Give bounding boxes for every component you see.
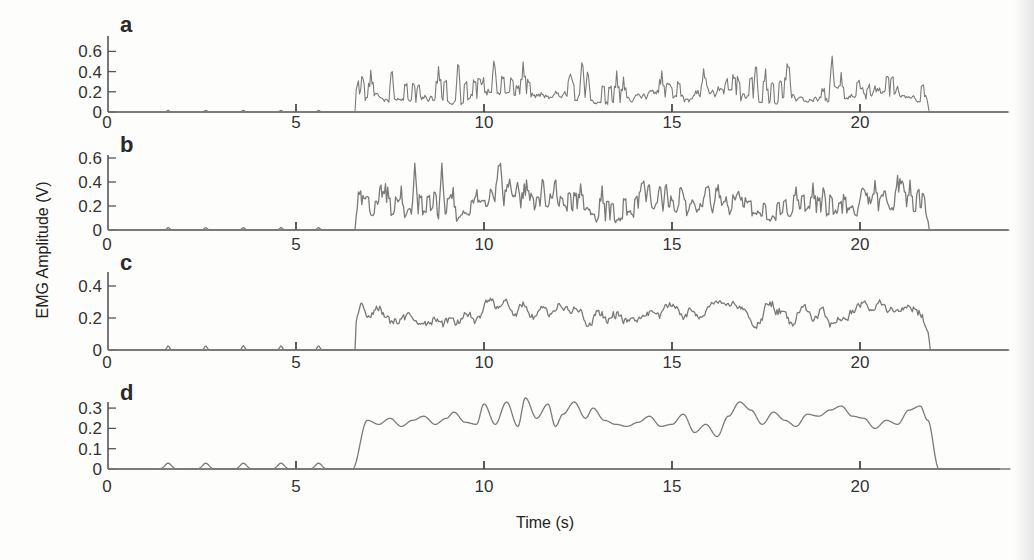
x-tick-label: 15 (663, 113, 682, 132)
panel-d: d 00.10.20.305101520 (78, 380, 1010, 496)
panel-c: c 00.20.405101520 (78, 250, 1009, 372)
emg-trace (108, 398, 1010, 469)
page-edge-shadow (1014, 0, 1034, 560)
emg-trace (108, 163, 1009, 230)
x-tick-label: 15 (663, 235, 682, 254)
x-tick-label: 20 (851, 353, 870, 372)
x-tick-label: 0 (102, 235, 111, 254)
x-tick-label: 0 (102, 477, 111, 496)
y-tick-label: 0.4 (78, 277, 102, 296)
y-tick-label: 0 (93, 460, 102, 479)
y-tick-label: 0.4 (78, 173, 102, 192)
x-tick-label: 15 (663, 353, 682, 372)
emg-trace (108, 56, 1009, 112)
panel-b: b 00.20.40.605101520 (78, 132, 1009, 254)
y-tick-label: 0.3 (78, 399, 102, 418)
x-tick-label: 10 (475, 477, 494, 496)
y-tick-label: 0 (93, 221, 102, 240)
y-tick-label: 0.6 (78, 42, 102, 61)
panel-label-c: c (120, 250, 132, 275)
y-tick-label: 0 (93, 341, 102, 360)
emg-trace (108, 298, 1009, 350)
x-tick-label: 5 (291, 235, 300, 254)
x-tick-label: 10 (475, 353, 494, 372)
x-tick-label: 20 (851, 235, 870, 254)
y-tick-label: 0.4 (78, 63, 102, 82)
x-tick-label: 10 (475, 113, 494, 132)
x-tick-label: 20 (851, 477, 870, 496)
panel-label-b: b (120, 132, 133, 157)
x-tick-label: 5 (291, 353, 300, 372)
y-tick-label: 0 (93, 103, 102, 122)
y-axis-title: EMG Amplitude (V) (34, 182, 51, 319)
x-tick-label: 15 (663, 477, 682, 496)
x-tick-label: 20 (851, 113, 870, 132)
y-tick-label: 0.2 (78, 83, 102, 102)
x-tick-label: 5 (291, 113, 300, 132)
x-tick-label: 5 (291, 477, 300, 496)
emg-figure: EMG Amplitude (V) Time (s) a 00.20.40.60… (0, 0, 1034, 560)
x-axis-title: Time (s) (516, 514, 574, 531)
y-tick-label: 0.2 (78, 309, 102, 328)
y-tick-label: 0.6 (78, 149, 102, 168)
x-tick-label: 0 (102, 113, 111, 132)
x-tick-label: 0 (102, 353, 111, 372)
panel-a: a 00.20.40.605101520 (78, 12, 1009, 132)
y-tick-label: 0.1 (78, 440, 102, 459)
y-tick-label: 0.2 (78, 197, 102, 216)
y-tick-label: 0.2 (78, 419, 102, 438)
x-tick-label: 10 (475, 235, 494, 254)
panel-label-a: a (120, 12, 133, 37)
panel-label-d: d (120, 380, 133, 405)
